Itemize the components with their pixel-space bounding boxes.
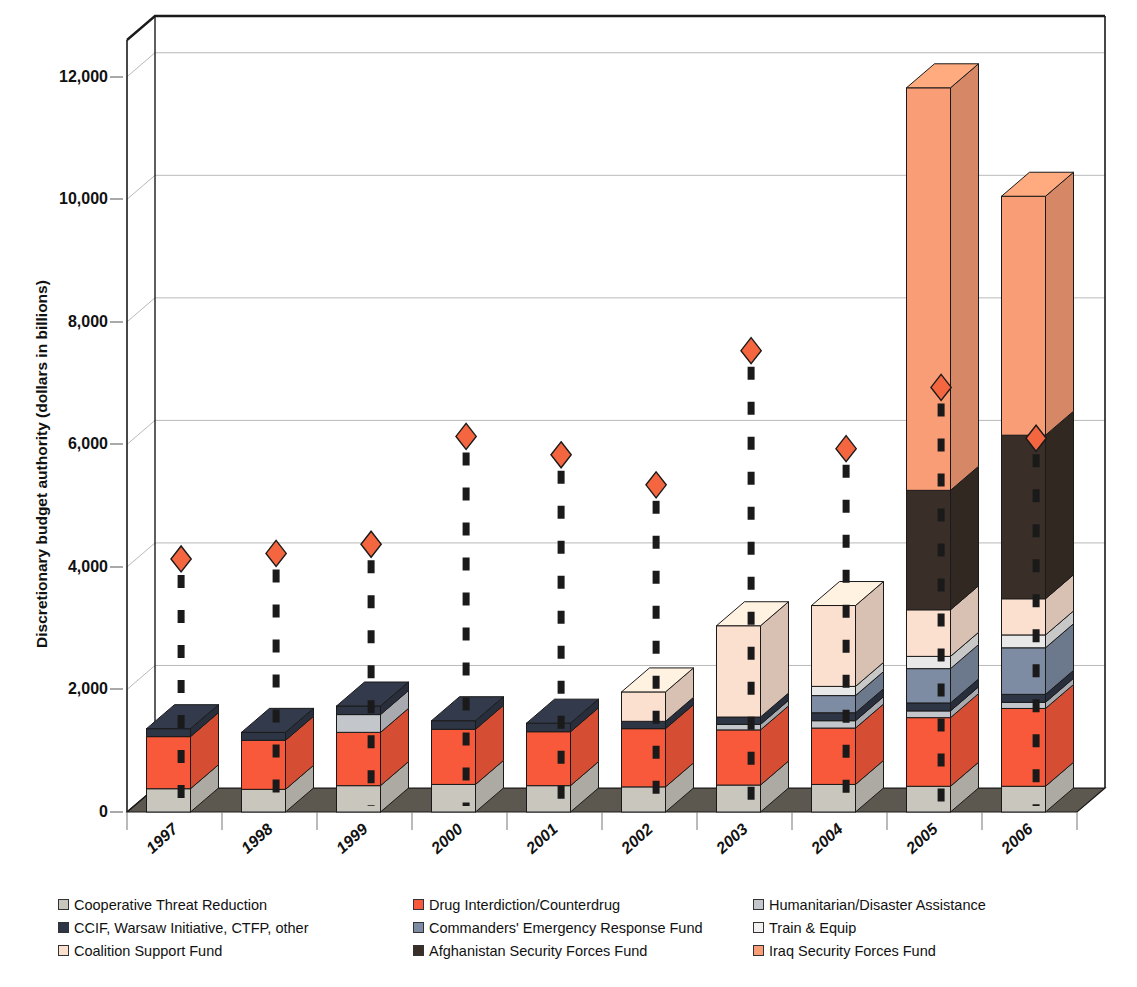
- y-tick-mark: [110, 76, 123, 77]
- legend-label: Afghanistan Security Forces Fund: [429, 943, 647, 959]
- bar-segment-front: [432, 721, 476, 730]
- bar-segment-front: [812, 686, 856, 695]
- legend-label: Coalition Support Fund: [74, 943, 222, 959]
- legend-label: CCIF, Warsaw Initiative, CTFP, other: [74, 920, 308, 936]
- bar-segment-front: [432, 784, 476, 812]
- legend-label: Iraq Security Forces Fund: [769, 943, 936, 959]
- legend-swatch-icon: [58, 922, 69, 933]
- y-tick-mark: [110, 444, 123, 445]
- legend-swatch-icon: [413, 945, 424, 956]
- bar-segment-front: [242, 789, 286, 812]
- legend-swatch-icon: [58, 899, 69, 910]
- bar-segment-side: [951, 466, 979, 609]
- legend-item[interactable]: Commanders' Emergency Response Fund: [413, 920, 753, 936]
- y-tick-mark: [110, 566, 123, 567]
- legend-item[interactable]: Humanitarian/Disaster Assistance: [753, 897, 1098, 913]
- plot-area: [0, 0, 1137, 890]
- legend-item[interactable]: CCIF, Warsaw Initiative, CTFP, other: [58, 920, 413, 936]
- legend-swatch-icon: [413, 899, 424, 910]
- legend-label: Humanitarian/Disaster Assistance: [769, 897, 986, 913]
- bar-segment-front: [907, 711, 951, 718]
- bar-2000[interactable]: [432, 697, 504, 812]
- legend-swatch-icon: [753, 945, 764, 956]
- legend-item[interactable]: Drug Interdiction/Counterdrug: [413, 897, 753, 913]
- legend-label: Train & Equip: [769, 920, 856, 936]
- bar-segment-side: [1046, 411, 1074, 599]
- bar-2005[interactable]: [907, 64, 979, 812]
- legend-item[interactable]: Coalition Support Fund: [58, 943, 413, 959]
- legend-label: Commanders' Emergency Response Fund: [429, 920, 703, 936]
- y-tick-mark: [110, 689, 123, 690]
- bar-segment-front: [337, 786, 381, 812]
- bar-1998[interactable]: [242, 708, 314, 812]
- bar-segment-front: [1002, 786, 1046, 812]
- bar-segment-side: [951, 64, 979, 491]
- bar-segment-front: [337, 715, 381, 733]
- legend-item[interactable]: Cooperative Threat Reduction: [58, 897, 413, 913]
- legend-swatch-icon: [413, 922, 424, 933]
- chart-root: Discretionary budget authority (dollars …: [0, 0, 1137, 987]
- bar-segment-front: [242, 732, 286, 740]
- legend-item[interactable]: Afghanistan Security Forces Fund: [413, 943, 753, 959]
- bar-segment-front: [1002, 196, 1046, 435]
- bar-segment-front: [907, 88, 951, 491]
- bar-segment-front: [717, 626, 761, 717]
- y-tick-mark: [110, 321, 123, 322]
- bar-2003[interactable]: [717, 602, 789, 812]
- legend-item[interactable]: Train & Equip: [753, 920, 1098, 936]
- chart-legend: Cooperative Threat ReductionDrug Interdi…: [58, 893, 1098, 962]
- legend-swatch-icon: [58, 945, 69, 956]
- bar-segment-side: [1046, 172, 1074, 435]
- bar-segment-front: [907, 703, 951, 711]
- legend-swatch-icon: [753, 899, 764, 910]
- legend-item[interactable]: Iraq Security Forces Fund: [753, 943, 1098, 959]
- legend-swatch-icon: [753, 922, 764, 933]
- y-tick-mark: [110, 812, 123, 813]
- legend-label: Cooperative Threat Reduction: [74, 897, 267, 913]
- bar-segment-front: [147, 729, 191, 737]
- legend-label: Drug Interdiction/Counterdrug: [429, 897, 620, 913]
- y-tick-mark: [110, 199, 123, 200]
